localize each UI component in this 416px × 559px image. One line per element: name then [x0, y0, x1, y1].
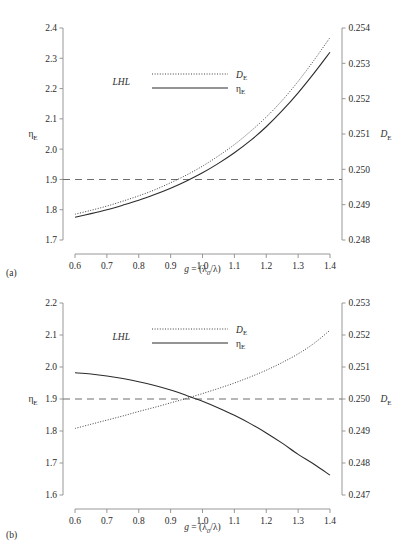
x-tick-label: 0.9: [165, 261, 177, 271]
x-tick-label: 1.1: [228, 261, 240, 271]
y-right-axis-title: DE: [379, 129, 391, 142]
y-right-tick-label: 0.250: [349, 165, 371, 175]
curve-etaE: [75, 373, 330, 475]
legend-label-DE: DE: [235, 70, 247, 83]
y-left-axis-title: ηE: [28, 129, 37, 142]
x-tick-label: 1.2: [260, 261, 272, 271]
y-left-tick-label: 2.0: [45, 362, 57, 372]
legend-label-etaE: ηE: [236, 339, 245, 352]
y-left-tick-label: 1.7: [45, 235, 57, 245]
y-right-tick-label: 0.249: [349, 200, 371, 210]
chart-panel-a: 1.71.81.92.02.12.22.32.40.2480.2490.2500…: [0, 0, 416, 280]
x-axis-title: g = (λ0/λ): [184, 264, 221, 277]
panel-label: (a): [6, 268, 17, 279]
y-right-tick-label: 0.254: [349, 23, 371, 33]
y-right-tick-label: 0.248: [349, 458, 371, 468]
y-right-tick-label: 0.252: [349, 94, 371, 104]
y-left-tick-label: 2.4: [45, 23, 57, 33]
y-right-tick-label: 0.251: [349, 362, 371, 372]
legend-group-label: LHL: [112, 332, 130, 342]
legend-group-label: LHL: [112, 77, 130, 87]
chart-b-svg: 1.61.71.81.92.02.12.20.2470.2480.2490.25…: [0, 280, 416, 559]
chart-panel-b: 1.61.71.81.92.02.12.20.2470.2480.2490.25…: [0, 280, 416, 559]
curve-DE: [75, 38, 330, 215]
x-axis-title: g = (λ0/λ): [184, 522, 221, 535]
x-tick-label: 1.2: [260, 516, 272, 526]
y-left-tick-label: 2.3: [45, 54, 57, 64]
y-right-tick-label: 0.248: [349, 235, 371, 245]
x-tick-label: 0.9: [165, 516, 177, 526]
y-right-tick-label: 0.251: [349, 129, 371, 139]
x-tick-label: 0.6: [69, 261, 81, 271]
curve-DE: [75, 330, 330, 428]
x-tick-label: 0.7: [101, 261, 113, 271]
y-right-tick-label: 0.249: [349, 426, 371, 436]
y-left-tick-label: 1.9: [45, 394, 57, 404]
y-left-tick-label: 2.2: [45, 298, 57, 308]
y-right-tick-label: 0.253: [349, 59, 371, 69]
y-right-tick-label: 0.252: [349, 330, 371, 340]
y-left-tick-label: 1.8: [45, 426, 57, 436]
legend-label-DE: DE: [235, 325, 247, 338]
y-left-tick-label: 2.1: [45, 114, 57, 124]
y-right-tick-label: 0.247: [349, 490, 371, 500]
y-left-tick-label: 2.1: [45, 330, 57, 340]
panel-label: (b): [6, 530, 17, 541]
x-tick-label: 0.8: [133, 516, 145, 526]
y-right-axis-title: DE: [379, 394, 391, 407]
x-tick-label: 0.8: [133, 261, 145, 271]
y-left-tick-label: 1.8: [45, 205, 57, 215]
y-left-tick-label: 1.9: [45, 175, 57, 185]
x-tick-label: 0.6: [69, 516, 81, 526]
y-left-tick-label: 2.0: [45, 145, 57, 155]
y-left-axis-title: ηE: [28, 394, 37, 407]
chart-a-svg: 1.71.81.92.02.12.22.32.40.2480.2490.2500…: [0, 0, 416, 280]
x-tick-label: 1.3: [292, 261, 304, 271]
x-tick-label: 1.4: [324, 516, 336, 526]
x-tick-label: 0.7: [101, 516, 113, 526]
x-tick-label: 1.4: [324, 261, 336, 271]
y-right-tick-label: 0.250: [349, 394, 371, 404]
x-tick-label: 1.1: [228, 516, 240, 526]
legend-label-etaE: ηE: [236, 84, 245, 97]
y-left-tick-label: 1.7: [45, 458, 57, 468]
y-left-tick-label: 1.6: [45, 490, 57, 500]
x-tick-label: 1.3: [292, 516, 304, 526]
y-right-tick-label: 0.253: [349, 298, 371, 308]
y-left-tick-label: 2.2: [45, 84, 57, 94]
